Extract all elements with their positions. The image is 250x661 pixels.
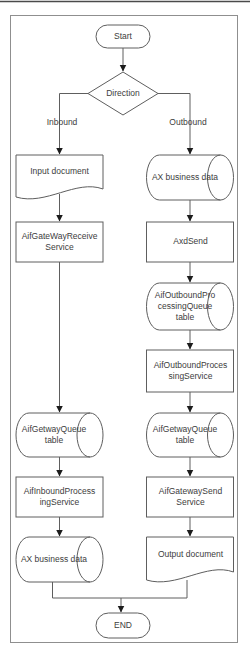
- axd-send-shape: [147, 222, 234, 262]
- flowchart-canvas: [0, 0, 250, 661]
- aif-outbound-processing-shape: [147, 350, 234, 392]
- outbound-branch-label: Outbound: [164, 117, 212, 127]
- aif-outbound-queue-shape: [147, 283, 234, 330]
- end-terminator-shape: [96, 613, 150, 638]
- aif-gateway-send-shape: [147, 477, 234, 517]
- aif-getway-queue-right-shape: [147, 413, 234, 457]
- ax-business-data-left-shape: [16, 537, 103, 582]
- aif-getway-queue-left-shape: [16, 413, 103, 457]
- ax-business-data-right-shape: [147, 155, 234, 200]
- inbound-branch-label: Inbound: [38, 117, 86, 127]
- start-terminator-shape: [96, 25, 150, 48]
- aif-gateway-receive-shape: [16, 222, 103, 262]
- aif-inbound-processing-shape: [16, 477, 103, 517]
- flowchart-diagram: Start Direction Inbound Outbound Input d…: [0, 0, 250, 661]
